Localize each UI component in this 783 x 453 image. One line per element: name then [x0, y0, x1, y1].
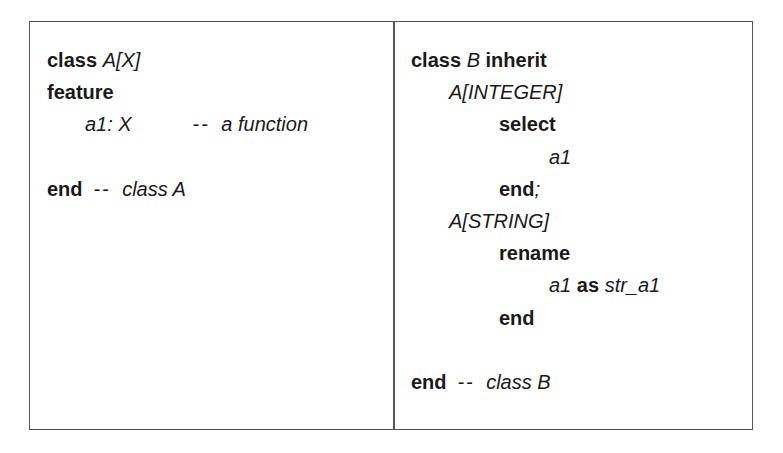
- identifier: A[INTEGER]: [449, 81, 562, 103]
- keyword: feature: [47, 81, 114, 103]
- identifier: A[STRING]: [449, 210, 549, 232]
- keyword: inherit: [486, 49, 547, 71]
- code-line: a1: X -- a function: [47, 108, 308, 140]
- spacer: [83, 178, 94, 200]
- comment: class A: [122, 178, 186, 200]
- code-line: class B inherit: [411, 44, 660, 76]
- keyword: end: [47, 178, 83, 200]
- keyword: select: [499, 113, 556, 135]
- identifier: a1: X: [85, 113, 132, 135]
- code-line: end -- class B: [411, 366, 660, 398]
- comment: class B: [486, 371, 550, 393]
- code-line: feature: [47, 76, 308, 108]
- identifier: a1: [549, 274, 571, 296]
- identifier: str_a1: [605, 274, 661, 296]
- comment-marker: --: [458, 371, 475, 393]
- comment-marker: --: [94, 178, 111, 200]
- code-line: a1 as str_a1: [411, 269, 660, 301]
- code-line: [47, 141, 308, 173]
- comment-marker: --: [193, 113, 210, 135]
- code-line: end: [411, 302, 660, 334]
- code-line: a1: [411, 141, 660, 173]
- keyword: class: [411, 49, 461, 71]
- code-listing-frame: class A[X]featurea1: X -- a function end…: [29, 21, 753, 430]
- spacer: [210, 113, 221, 135]
- spacer: [132, 113, 193, 135]
- spacer: [111, 178, 122, 200]
- code-line: select: [411, 108, 660, 140]
- identifier: a1: [549, 146, 571, 168]
- code-line: class A[X]: [47, 44, 308, 76]
- comment: a function: [221, 113, 308, 135]
- spacer: [447, 371, 458, 393]
- spacer: [475, 371, 486, 393]
- identifier: B: [467, 49, 480, 71]
- code-line: A[STRING]: [411, 205, 660, 237]
- class-b-code: class B inheritA[INTEGER]selecta1end;A[S…: [411, 44, 660, 398]
- keyword: rename: [499, 242, 570, 264]
- keyword: end: [411, 371, 447, 393]
- identifier: A[X]: [103, 49, 141, 71]
- class-a-code: class A[X]featurea1: X -- a function end…: [47, 44, 308, 205]
- code-line: rename: [411, 237, 660, 269]
- class-b-panel: class B inheritA[INTEGER]selecta1end;A[S…: [395, 22, 752, 429]
- code-line: A[INTEGER]: [411, 76, 660, 108]
- code-line: end -- class A: [47, 173, 308, 205]
- code-line: [411, 334, 660, 366]
- class-a-panel: class A[X]featurea1: X -- a function end…: [30, 22, 393, 429]
- identifier: ;: [535, 178, 541, 200]
- code-line: end;: [411, 173, 660, 205]
- keyword: as: [577, 274, 599, 296]
- keyword: class: [47, 49, 97, 71]
- keyword: end: [499, 178, 535, 200]
- keyword: end: [499, 307, 535, 329]
